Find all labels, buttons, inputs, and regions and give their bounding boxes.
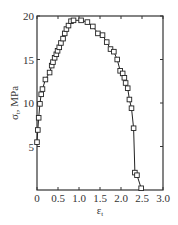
data-point-marker xyxy=(35,140,40,145)
data-point-marker xyxy=(79,18,84,23)
x-tick-label: 1.0 xyxy=(72,192,86,204)
x-tick-label: 3.0 xyxy=(156,192,170,204)
plot-frame xyxy=(37,16,163,190)
data-point-marker xyxy=(40,87,45,92)
data-point-marker xyxy=(129,106,134,111)
y-tick-label: 10 xyxy=(23,97,35,109)
data-point-marker xyxy=(115,57,120,62)
data-point-marker xyxy=(131,126,136,131)
data-point-marker xyxy=(104,40,109,45)
series-line xyxy=(37,20,141,188)
plot-border xyxy=(37,16,163,190)
y-tick-label: 15 xyxy=(23,54,35,66)
data-point-marker xyxy=(85,20,90,25)
y-tick-label: 20 xyxy=(23,10,35,22)
x-tick-label: 2.5 xyxy=(135,192,149,204)
data-point-marker xyxy=(123,81,128,86)
data-point-marker xyxy=(139,186,144,191)
y-axis-label: σt, MPa xyxy=(8,86,22,120)
x-axis-label: εt xyxy=(97,204,104,218)
data-point-marker xyxy=(91,24,96,29)
data-series xyxy=(35,18,144,191)
y-tick-label: 5 xyxy=(29,141,35,153)
data-point-marker xyxy=(96,31,101,36)
data-point-marker xyxy=(36,128,41,133)
data-point-marker xyxy=(112,49,117,54)
x-axis-ticks: 00.51.01.52.02.53.0 xyxy=(34,16,170,204)
data-point-marker xyxy=(38,102,43,107)
data-point-marker xyxy=(125,86,130,91)
data-point-marker xyxy=(100,33,105,38)
x-tick-label: 1.5 xyxy=(93,192,107,204)
x-tick-label: 2.0 xyxy=(114,192,128,204)
data-point-marker xyxy=(122,75,127,80)
data-point-marker xyxy=(61,36,66,41)
stress-strain-chart: 00.51.01.52.02.53.0 5101520 εt σt, MPa xyxy=(0,0,178,225)
data-point-marker xyxy=(127,97,132,102)
data-point-marker xyxy=(36,115,41,120)
data-point-marker xyxy=(47,70,52,75)
data-point-marker xyxy=(39,92,44,97)
data-point-marker xyxy=(135,173,140,178)
x-tick-label: 0.5 xyxy=(51,192,65,204)
x-tick-label: 0 xyxy=(34,192,40,204)
data-point-marker xyxy=(71,18,76,23)
data-point-marker xyxy=(43,77,48,82)
